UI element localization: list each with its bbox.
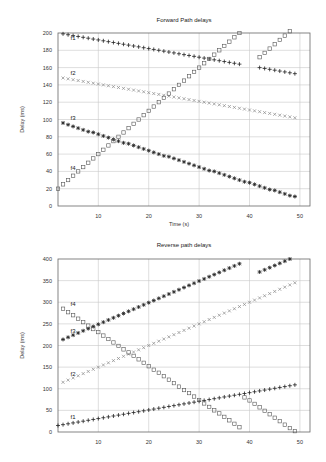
star-marker — [222, 268, 226, 272]
plus-marker — [293, 383, 297, 387]
series-label-f1: f1 — [71, 35, 77, 41]
plus-marker — [217, 59, 221, 63]
chart-title: Forward Path delays — [156, 17, 211, 23]
star-marker — [202, 277, 206, 281]
plus-marker — [61, 32, 65, 36]
square-marker — [233, 36, 236, 39]
star-marker — [227, 175, 231, 179]
series-label-f4: f4 — [71, 301, 77, 307]
square-marker — [213, 53, 216, 56]
square-marker — [268, 413, 271, 416]
plus-marker — [283, 385, 287, 389]
star-marker — [273, 263, 277, 267]
x-marker — [233, 307, 236, 310]
x-marker — [107, 361, 110, 364]
plus-marker — [132, 411, 136, 415]
plus-marker — [81, 35, 85, 39]
x-tick-label: 10 — [95, 439, 101, 445]
star-marker — [116, 139, 120, 143]
x-marker — [253, 299, 256, 302]
x-marker — [72, 376, 75, 379]
y-tick-label: 200 — [43, 30, 52, 36]
series-label-f4: f4 — [71, 165, 77, 171]
square-marker — [177, 385, 180, 388]
star-marker — [263, 268, 267, 272]
star-marker — [142, 303, 146, 307]
plus-marker — [111, 41, 115, 45]
star-marker — [96, 132, 100, 136]
star-marker — [263, 186, 267, 190]
series-label-f2: f2 — [71, 371, 77, 377]
y-tick-label: 50 — [46, 407, 52, 413]
x-marker — [188, 98, 191, 101]
x-marker — [293, 116, 296, 119]
plus-marker — [273, 68, 277, 72]
square-marker — [112, 341, 115, 344]
y-tick-label: 0 — [49, 203, 52, 209]
x-marker — [87, 370, 90, 373]
reverse-path-delays-chart: Reverse path delays050100150200250300350… — [0, 228, 326, 462]
square-marker — [102, 334, 105, 337]
series-f1 — [56, 383, 297, 428]
plus-marker — [237, 392, 241, 396]
x-marker — [82, 372, 85, 375]
x-marker — [203, 320, 206, 323]
star-marker — [258, 184, 262, 188]
x-marker — [92, 82, 95, 85]
x-marker — [102, 363, 105, 366]
plus-marker — [162, 405, 166, 409]
square-marker — [152, 368, 155, 371]
star-marker — [278, 190, 282, 194]
plus-marker — [86, 418, 90, 422]
star-marker — [81, 128, 85, 132]
square-marker — [283, 423, 286, 426]
star-marker — [147, 149, 151, 153]
square-marker — [71, 174, 74, 177]
x-marker — [177, 331, 180, 334]
forward-chart-svg: Forward Path delays020406080100120140160… — [0, 0, 326, 230]
plus-marker — [172, 51, 176, 55]
x-marker — [208, 318, 211, 321]
x-marker — [238, 305, 241, 308]
plus-marker — [222, 395, 226, 399]
star-marker — [116, 314, 120, 318]
x-marker — [273, 113, 276, 116]
star-marker — [197, 165, 201, 169]
plus-marker — [207, 398, 211, 402]
star-marker — [232, 176, 236, 180]
y-tick-label: 0 — [49, 429, 52, 435]
x-marker — [223, 104, 226, 107]
x-marker — [172, 333, 175, 336]
square-marker — [127, 351, 130, 354]
square-marker — [122, 348, 125, 351]
plus-marker — [56, 424, 60, 428]
star-marker — [76, 331, 80, 335]
x-marker — [152, 92, 155, 95]
y-tick-label: 300 — [43, 299, 52, 305]
square-marker — [157, 371, 160, 374]
x-marker — [132, 89, 135, 92]
star-marker — [157, 152, 161, 156]
plus-marker — [71, 421, 75, 425]
plus-marker — [157, 48, 161, 52]
plus-marker — [96, 38, 100, 42]
star-marker — [273, 188, 277, 192]
square-marker — [192, 395, 195, 398]
square-marker — [263, 409, 266, 412]
plus-marker — [258, 389, 262, 393]
star-marker — [162, 294, 166, 298]
square-marker — [208, 405, 211, 408]
y-tick-label: 20 — [46, 186, 52, 192]
x-marker — [293, 281, 296, 284]
series-f3 — [61, 257, 292, 341]
square-marker — [76, 317, 79, 320]
x-marker — [283, 115, 286, 118]
y-tick-label: 150 — [43, 364, 52, 370]
x-marker — [62, 381, 65, 384]
plus-marker — [197, 55, 201, 59]
series-label-f3: f3 — [71, 328, 77, 334]
plus-marker — [106, 40, 110, 44]
x-marker — [218, 103, 221, 106]
x-marker — [258, 110, 261, 113]
grid — [58, 259, 310, 432]
